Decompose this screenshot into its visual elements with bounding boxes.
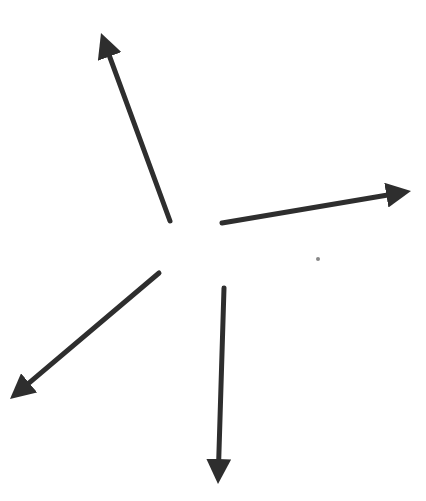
- stray-dot: [316, 257, 320, 261]
- arrow-down-left: [18, 273, 159, 393]
- arrow-diagram: [0, 0, 426, 501]
- arrow-up-left: [104, 42, 170, 221]
- arrow-down: [218, 288, 224, 474]
- arrow-right: [222, 193, 401, 223]
